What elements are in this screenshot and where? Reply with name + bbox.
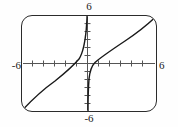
graph-plot-area [21, 15, 157, 112]
x-max-label: 6 [159, 60, 178, 71]
calculator-graph-screenshot: 6 -6 -6 6 [0, 0, 178, 127]
y-max-label: 6 [0, 1, 178, 12]
y-min-label: -6 [0, 113, 178, 124]
x-min-label: -6 [2, 60, 21, 71]
